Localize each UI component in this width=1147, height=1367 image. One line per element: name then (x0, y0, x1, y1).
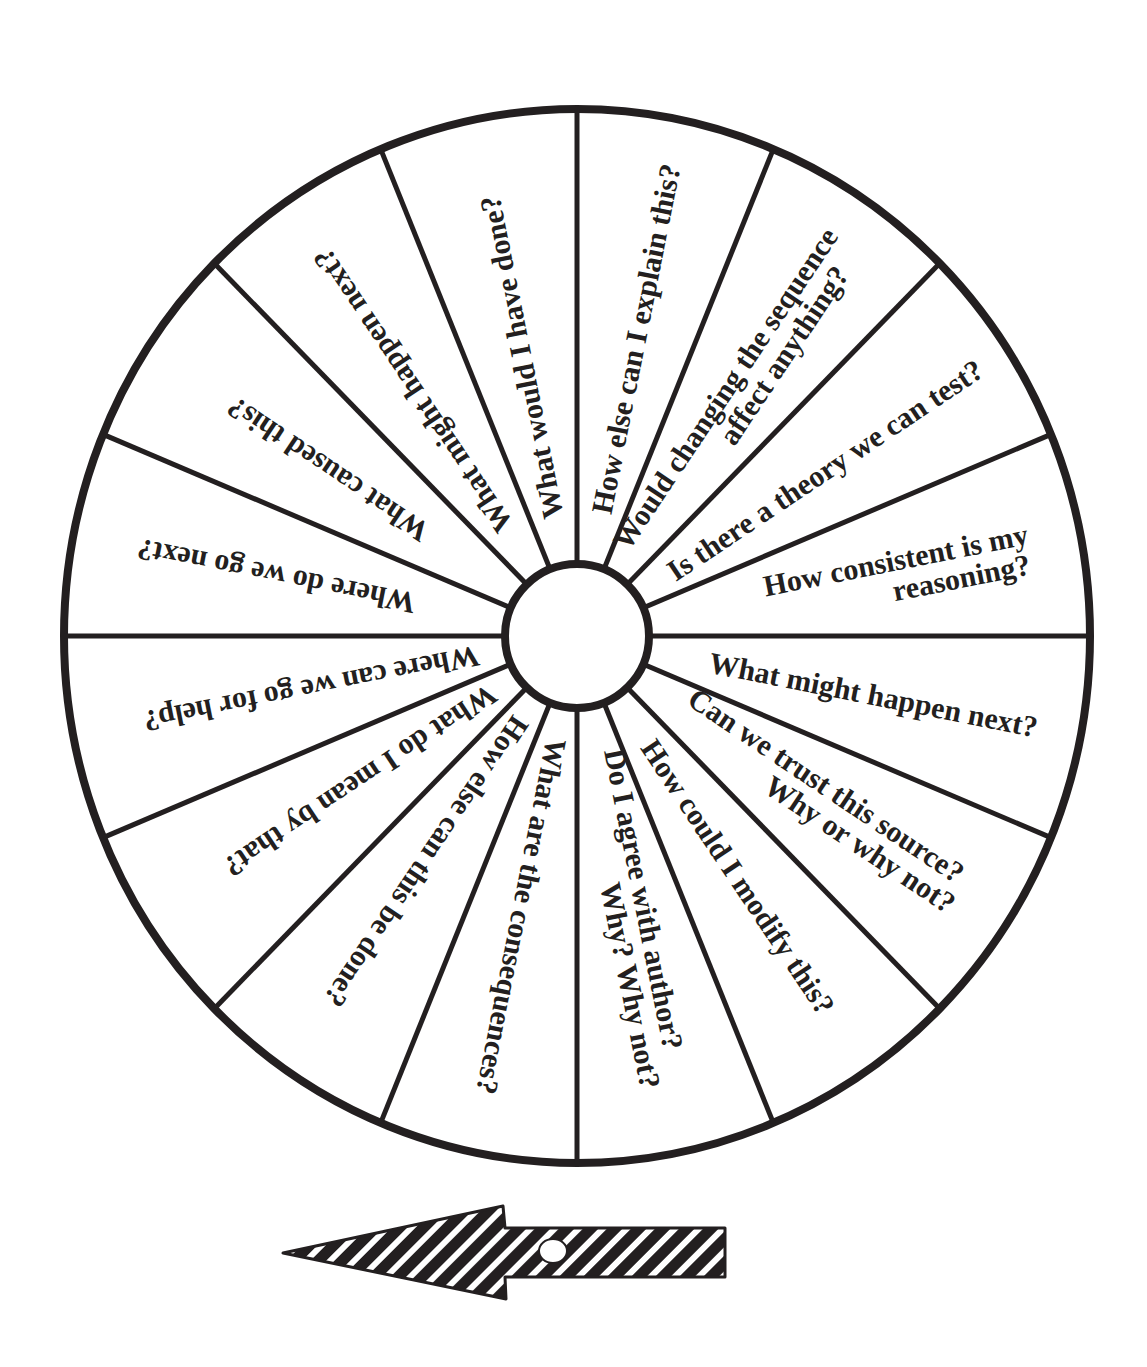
question-wheel[interactable]: How else can I explain this?Would changi… (64, 109, 1090, 1163)
wheel-hub[interactable] (505, 564, 649, 708)
question-wheel-page: How else can I explain this?Would changi… (0, 0, 1147, 1367)
arrow-pivot-hole (539, 1239, 567, 1263)
arrow-icon[interactable] (283, 1206, 725, 1299)
spinner-arrow[interactable] (283, 1206, 725, 1299)
